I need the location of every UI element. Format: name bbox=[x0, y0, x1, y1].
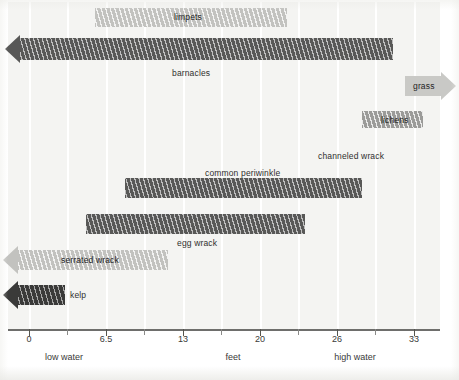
bar-label-limpets: limpets bbox=[174, 12, 202, 22]
axis-caption-feet: feet bbox=[225, 352, 240, 362]
axis-tick-minor bbox=[221, 329, 222, 335]
axis-tick-minor bbox=[298, 329, 299, 335]
bar-barnacles bbox=[20, 38, 393, 60]
bar-label-kelp: kelp bbox=[70, 290, 86, 300]
arrow-head-left-icon bbox=[3, 246, 18, 274]
axis-tick-label-6_5: 6.5 bbox=[100, 334, 113, 344]
bar-common-periwinkle bbox=[125, 178, 362, 198]
bar-label-egg-wrack: egg wrack bbox=[177, 238, 217, 248]
bar-label-barnacles: barnacles bbox=[172, 68, 210, 78]
arrow-head-left-icon bbox=[3, 281, 18, 309]
axis-tick-minor bbox=[144, 329, 145, 335]
axis-caption-high-water: high water bbox=[334, 352, 376, 362]
bar-label-grass: grass bbox=[413, 81, 435, 91]
axis-tick-label-13: 13 bbox=[178, 334, 188, 344]
bar-label-common-periwinkle: common periwinkle bbox=[205, 168, 280, 178]
arrow-head-right-icon bbox=[441, 72, 456, 100]
axis-tick-minor bbox=[375, 329, 376, 335]
axis-caption-low-water: low water bbox=[45, 352, 83, 362]
axis-tick-minor bbox=[67, 329, 68, 335]
axis-tick-label-20: 20 bbox=[255, 334, 265, 344]
bar-kelp bbox=[18, 285, 65, 305]
bar-label-lichens: lichens bbox=[381, 115, 409, 125]
zonation-chart-figure: limpets barnacles grass lichens channele… bbox=[0, 0, 459, 380]
bars-layer bbox=[0, 0, 459, 330]
bar-label-channeled-wrack: channeled wrack bbox=[318, 151, 384, 161]
axis-tick-label-0: 0 bbox=[26, 334, 31, 344]
axis-tick-label-26: 26 bbox=[332, 334, 342, 344]
bar-label-serrated-wrack: serrated wrack bbox=[61, 255, 119, 265]
axis-tick-label-33: 33 bbox=[409, 334, 419, 344]
bar-egg-wrack bbox=[86, 214, 305, 234]
arrow-head-left-icon bbox=[5, 35, 20, 63]
